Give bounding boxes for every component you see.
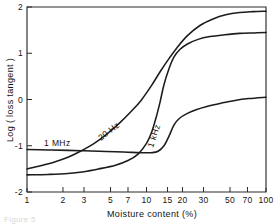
x-tick-label: 15 bbox=[163, 195, 173, 205]
y-tick-label: -2 bbox=[15, 187, 23, 197]
x-tick-label: 70 bbox=[242, 195, 252, 205]
figure-caption: Figure 5 bbox=[4, 215, 36, 224]
chart-canvas: -2-1012 12357101520305070100 Log ( loss … bbox=[0, 0, 278, 224]
x-tick-label: 30 bbox=[198, 195, 208, 205]
x-tick-label: 100 bbox=[258, 195, 273, 205]
y-tick-label: 2 bbox=[18, 2, 23, 12]
x-tick-label: 5 bbox=[108, 195, 113, 205]
x-axis-title: Moisture content (%) bbox=[107, 209, 197, 219]
y-tick-label: 0 bbox=[18, 95, 23, 105]
x-tick-label: 50 bbox=[225, 195, 235, 205]
x-tick-label: 10 bbox=[141, 195, 151, 205]
figure-container: -2-1012 12357101520305070100 Log ( loss … bbox=[0, 0, 278, 224]
x-tick-label: 2 bbox=[60, 195, 65, 205]
y-axis-title: Log ( loss tangent ) bbox=[5, 58, 15, 142]
curve-label-1-mhz: 1 MHz bbox=[44, 138, 71, 148]
y-tick-label: 1 bbox=[18, 48, 23, 58]
x-tick-label: 3 bbox=[82, 195, 87, 205]
x-tick-label: 1 bbox=[24, 195, 29, 205]
x-axis-ticks bbox=[27, 187, 266, 192]
y-tick-label: -1 bbox=[15, 141, 23, 151]
x-tick-label: 20 bbox=[177, 195, 187, 205]
x-tick-label: 7 bbox=[125, 195, 130, 205]
